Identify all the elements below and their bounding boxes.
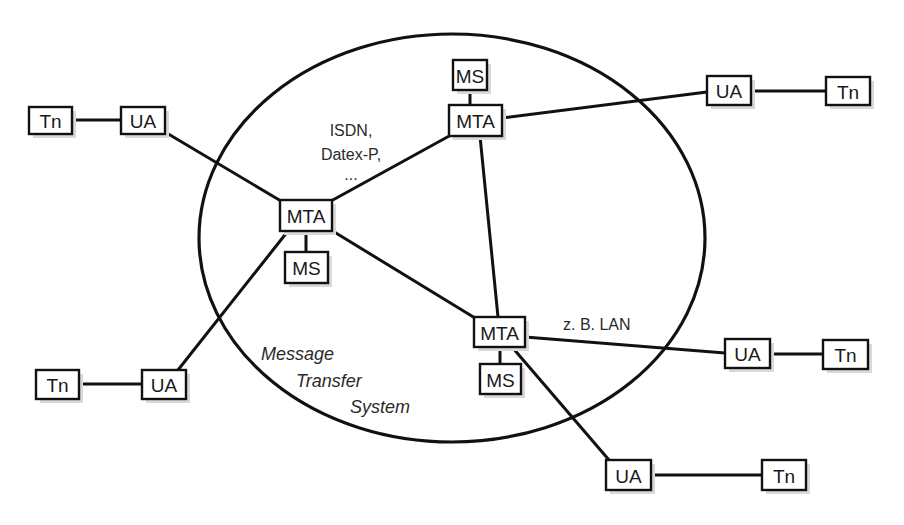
link-mta-top-to-ua-top-right bbox=[502, 92, 707, 118]
network-label-isdn: ISDN, Datex-P, ... bbox=[321, 122, 381, 183]
node-label: Tn bbox=[834, 345, 856, 366]
connection-lines bbox=[72, 90, 826, 475]
link-mta-bottom-to-ua-mid-right bbox=[525, 337, 725, 353]
node-label: UA bbox=[151, 375, 178, 396]
mts-network-diagram: TnUAMSMTAUATnMTAMSMTAMSUATnTnUAUATn ISDN… bbox=[0, 0, 904, 525]
node-mta-top: MTA bbox=[449, 105, 506, 140]
node-label: UA bbox=[734, 344, 761, 365]
node-tn-top-left: Tn bbox=[29, 107, 76, 138]
nodes: TnUAMSMTAUATnMTAMSMTAMSUATnTnUAUATn bbox=[29, 60, 874, 494]
network-label-line-3: ... bbox=[344, 166, 357, 183]
node-ua-bottom-left: UA bbox=[142, 370, 190, 403]
node-mta-left: MTA bbox=[280, 200, 336, 235]
system-name-line-1: Message bbox=[261, 344, 334, 364]
node-label: MS bbox=[456, 66, 485, 87]
link-mta-bottom-to-ua-bottom bbox=[512, 347, 609, 460]
node-label: MS bbox=[292, 258, 321, 279]
node-label: Tn bbox=[773, 466, 795, 487]
node-ms-left: MS bbox=[285, 252, 332, 287]
node-tn-bottom-left: Tn bbox=[36, 370, 83, 403]
link-mta-left-to-mta-bottom bbox=[331, 230, 475, 318]
node-label: MTA bbox=[480, 323, 519, 344]
node-ua-top-right: UA bbox=[707, 76, 755, 109]
message-transfer-system-boundary bbox=[199, 34, 705, 442]
node-ms-top: MS bbox=[453, 60, 491, 94]
node-ua-top-left: UA bbox=[121, 107, 169, 138]
node-mta-bottom: MTA bbox=[474, 317, 529, 351]
network-label-line-1: ISDN, bbox=[330, 122, 373, 139]
node-label: Tn bbox=[837, 82, 859, 103]
node-tn-top-right: Tn bbox=[826, 77, 874, 109]
node-label: MS bbox=[486, 370, 515, 391]
node-label: MTA bbox=[456, 111, 495, 132]
node-label: MTA bbox=[287, 206, 326, 227]
node-tn-mid-right: Tn bbox=[823, 340, 872, 373]
link-ua-top-left-to-mta-left bbox=[165, 132, 281, 201]
network-label-lan: z. B. LAN bbox=[563, 316, 631, 333]
network-label-line-2: Datex-P, bbox=[321, 146, 381, 163]
node-label: UA bbox=[130, 111, 157, 132]
node-ua-mid-right: UA bbox=[725, 339, 774, 372]
link-mta-top-to-mta-bottom bbox=[480, 136, 498, 317]
node-label: UA bbox=[716, 81, 743, 102]
system-name-label: Message Transfer System bbox=[261, 344, 410, 417]
node-ms-bottom: MS bbox=[480, 364, 525, 398]
node-label: UA bbox=[615, 466, 642, 487]
node-label: Tn bbox=[46, 375, 68, 396]
system-name-line-3: System bbox=[350, 397, 410, 417]
system-name-line-2: Transfer bbox=[296, 371, 363, 391]
node-ua-bottom: UA bbox=[606, 460, 655, 494]
node-tn-bottom: Tn bbox=[762, 460, 810, 494]
node-label: Tn bbox=[39, 111, 61, 132]
